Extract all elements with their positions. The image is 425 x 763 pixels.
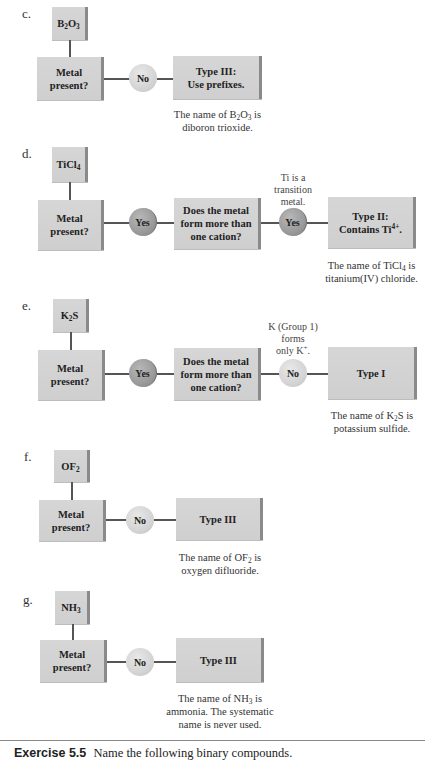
metal-present-box: Metalpresent? bbox=[38, 200, 104, 250]
answer-no-circle: No bbox=[126, 648, 154, 676]
caption: The name of NH3 is ammonia. The systemat… bbox=[155, 692, 285, 731]
answer-no-circle: No bbox=[279, 359, 307, 387]
question-box: Does the metalform more thanone cation? bbox=[174, 198, 261, 249]
formula-box: NH3 bbox=[55, 591, 90, 624]
annotation: K (Group 1)formsonly K+. bbox=[260, 321, 326, 357]
caption: The name of TiCl4 is titanium(IV) chlori… bbox=[318, 259, 425, 285]
answer-yes-circle: Yes bbox=[279, 208, 307, 236]
answer-yes-circle: Yes bbox=[129, 359, 157, 387]
connector-line bbox=[107, 661, 127, 663]
exercise-text: Name the following binary compounds. bbox=[93, 746, 292, 760]
connector-line bbox=[104, 78, 130, 80]
annotation: Ti is atransitionmetal. bbox=[268, 172, 318, 208]
connector-line bbox=[71, 482, 73, 500]
formula-box: B2O3 bbox=[52, 7, 88, 40]
connector-line bbox=[105, 373, 130, 375]
connector-line bbox=[106, 519, 127, 521]
result-box: Type III:Use prefixes. bbox=[173, 56, 262, 99]
formula-box: OF2 bbox=[54, 450, 90, 482]
formula-text: B2O3 bbox=[57, 17, 80, 30]
connector-line bbox=[69, 182, 71, 200]
caption: The name of OF2 is oxygen difluoride. bbox=[165, 551, 275, 577]
part-label: d. bbox=[22, 146, 32, 162]
result-box: Type I bbox=[328, 347, 417, 399]
part-label: e. bbox=[22, 298, 31, 314]
exercise-label: Exercise 5.5 bbox=[14, 746, 86, 760]
part-label: c. bbox=[22, 6, 31, 22]
formula-box: TiCl4 bbox=[52, 147, 88, 182]
connector-line bbox=[261, 222, 280, 224]
connector-line bbox=[104, 222, 130, 224]
metal-present-box: Metalpresent? bbox=[37, 57, 104, 100]
question-box: Does the metalform more thanone cation? bbox=[174, 348, 261, 400]
result-box: Type II:Contains Ti4+. bbox=[328, 197, 416, 248]
caption: The name of B2O3 is diboron trioxide. bbox=[160, 108, 275, 134]
connector-line bbox=[154, 519, 176, 521]
part-label: f. bbox=[24, 449, 32, 465]
connector-line bbox=[72, 624, 74, 641]
connector-line bbox=[69, 40, 71, 58]
answer-no-circle: No bbox=[129, 64, 157, 92]
metal-present-box: Metalpresent? bbox=[38, 350, 105, 400]
connector-line bbox=[157, 78, 174, 80]
metal-present-box: Metalpresent? bbox=[39, 500, 106, 541]
connector-line bbox=[157, 222, 174, 224]
answer-yes-circle: Yes bbox=[129, 208, 157, 236]
formula-box: K2S bbox=[53, 299, 89, 332]
answer-no-circle: No bbox=[126, 506, 154, 534]
caption: The name of K2S is potassium sulfide. bbox=[322, 409, 422, 435]
part-label: g. bbox=[23, 592, 33, 608]
result-box: Type III bbox=[176, 638, 264, 682]
divider bbox=[0, 740, 425, 741]
connector-line bbox=[261, 373, 280, 375]
connector-line bbox=[70, 332, 72, 350]
result-box: Type III bbox=[176, 498, 263, 540]
connector-line bbox=[307, 373, 329, 375]
metal-present-box: Metalpresent? bbox=[40, 640, 107, 682]
connector-line bbox=[154, 661, 176, 663]
exercise-heading: Exercise 5.5 Name the following binary c… bbox=[14, 746, 292, 761]
connector-line bbox=[157, 373, 174, 375]
connector-line bbox=[307, 222, 329, 224]
